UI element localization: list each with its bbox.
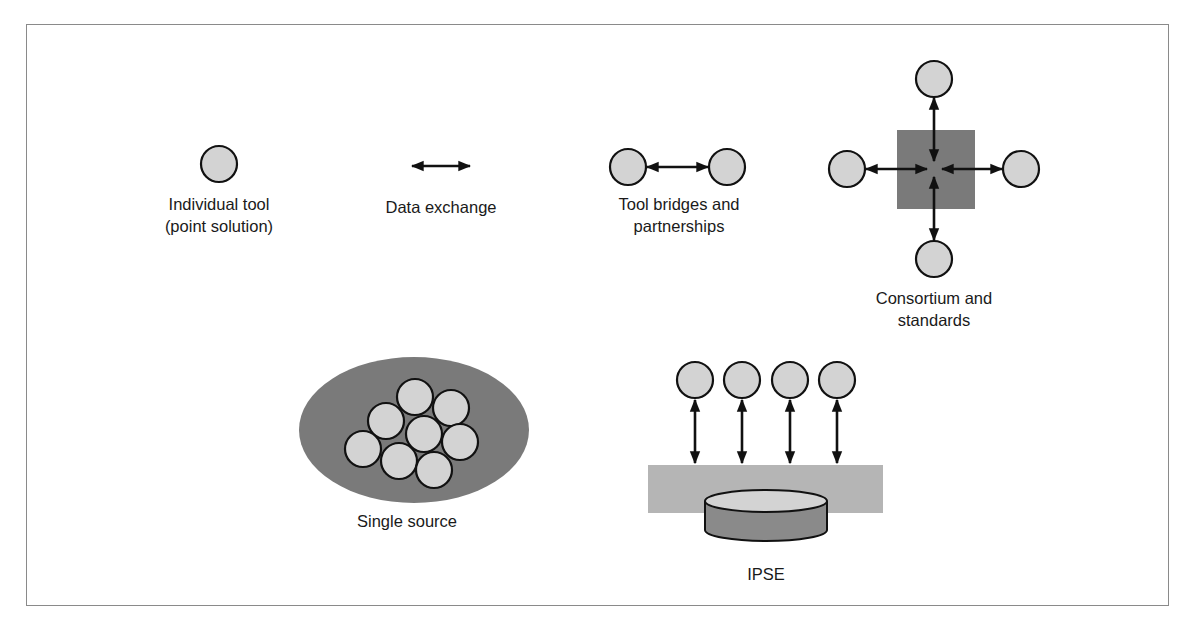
tool-circle: [345, 431, 381, 467]
tool-circle: [201, 146, 237, 182]
tool-bridges-label-2: partnerships: [634, 217, 725, 235]
tool-circle: [916, 61, 952, 97]
tool-bridges-label-1: Tool bridges and: [618, 195, 739, 213]
tool-circle: [829, 151, 865, 187]
tool-circle: [724, 362, 760, 398]
tool-circle: [709, 149, 745, 185]
tool-circle: [381, 443, 417, 479]
ipse-group: IPSE: [648, 362, 883, 583]
tool-circle: [916, 241, 952, 277]
tool-circle: [442, 424, 478, 460]
individual-tool-label-2: (point solution): [165, 217, 273, 235]
tool-circle: [819, 362, 855, 398]
tool-circle: [1003, 151, 1039, 187]
ipse-label: IPSE: [747, 565, 785, 583]
consortium-group: Consortium and standards: [829, 61, 1039, 329]
tool-circle: [677, 362, 713, 398]
tool-circle: [610, 149, 646, 185]
integration-diagram: Individual tool (point solution) Data ex…: [0, 0, 1194, 627]
single-source-label: Single source: [357, 512, 457, 530]
data-exchange-group: Data exchange: [386, 166, 497, 216]
tool-circle: [416, 452, 452, 488]
single-source-group: Single source: [299, 357, 529, 530]
individual-tool-label-1: Individual tool: [169, 195, 270, 213]
data-exchange-label: Data exchange: [386, 198, 497, 216]
individual-tool-group: Individual tool (point solution): [165, 146, 273, 235]
tool-circle: [433, 390, 469, 426]
tool-circle: [397, 379, 433, 415]
tool-bridges-group: Tool bridges and partnerships: [610, 149, 745, 235]
consortium-label-2: standards: [898, 311, 970, 329]
consortium-label-1: Consortium and: [876, 289, 992, 307]
database-icon: [705, 490, 827, 541]
tool-circle: [772, 362, 808, 398]
